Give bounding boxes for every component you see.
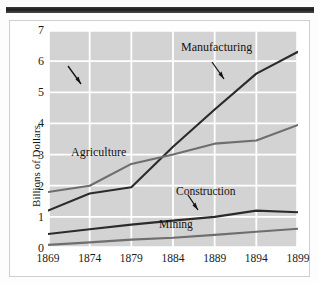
- x-tick-1884: 1884: [162, 252, 185, 264]
- annotation-agriculture: Agriculture: [71, 146, 126, 158]
- y-tick-4: 4: [24, 117, 44, 129]
- annotation-mining: Mining: [159, 219, 193, 231]
- x-tick-1874: 1874: [78, 252, 101, 264]
- annotation-manufacturing: Manufacturing: [181, 41, 252, 53]
- y-tick-5: 5: [24, 86, 44, 98]
- y-tick-7: 7: [24, 24, 44, 36]
- x-tick-1879: 1879: [120, 252, 143, 264]
- x-tick-1894: 1894: [245, 252, 268, 264]
- x-axis-tick-labels: 1869187418791884188918941899: [48, 252, 298, 270]
- y-tick-6: 6: [24, 55, 44, 67]
- x-tick-1869: 1869: [37, 252, 60, 264]
- y-tick-1: 1: [24, 211, 44, 223]
- x-tick-1889: 1889: [203, 252, 226, 264]
- top-rule-bar: [6, 7, 314, 13]
- y-tick-2: 2: [24, 180, 44, 192]
- annotation-construction: Construction: [176, 186, 235, 198]
- plot-svg: [48, 30, 298, 248]
- y-axis-tick-labels: 01234567: [24, 30, 44, 248]
- y-tick-3: 3: [24, 149, 44, 161]
- plot-area: [48, 30, 298, 248]
- chart-page: Billions of Dollars 01234567 Manufacturi…: [0, 0, 319, 283]
- x-tick-1899: 1899: [287, 252, 310, 264]
